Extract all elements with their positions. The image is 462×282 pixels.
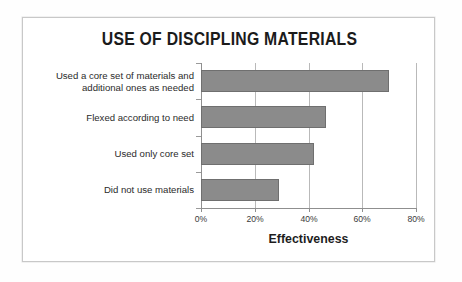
category-label-line: Did not use materials: [26, 184, 194, 196]
x-tick-mark: [362, 208, 363, 212]
category-label-line: Used only core set: [26, 148, 194, 160]
x-tick-label: 80%: [396, 214, 436, 224]
y-axis-end-tick: [196, 63, 201, 64]
x-tick-mark: [416, 208, 417, 212]
scanned-page: USE OF DISCIPLING MATERIALS Effectivenes…: [0, 0, 462, 282]
category-label: Used only core set: [26, 148, 194, 160]
y-tick-mark: [196, 99, 201, 100]
x-tick-label: 20%: [235, 214, 275, 224]
category-label: Flexed according to need: [26, 112, 194, 124]
category-label-line: additional ones as needed: [26, 82, 194, 94]
chart-frame: USE OF DISCIPLING MATERIALS Effectivenes…: [22, 17, 435, 262]
category-label-line: Used a core set of materials and: [26, 70, 194, 82]
plot-area: [201, 63, 416, 208]
x-tick-label: 40%: [289, 214, 329, 224]
gridline: [416, 63, 417, 208]
chart-title: USE OF DISCIPLING MATERIALS: [44, 29, 416, 50]
y-axis-end-tick: [196, 208, 201, 209]
bar: [201, 70, 389, 92]
category-label-line: Flexed according to need: [26, 112, 194, 124]
x-axis-title: Effectiveness: [201, 232, 416, 246]
bar: [201, 143, 314, 165]
category-label: Did not use materials: [26, 184, 194, 196]
bar: [201, 106, 326, 128]
x-tick-label: 60%: [342, 214, 382, 224]
x-tick-label: 0%: [181, 214, 221, 224]
x-tick-mark: [255, 208, 256, 212]
bar: [201, 179, 279, 201]
category-label: Used a core set of materials andaddition…: [26, 70, 194, 93]
x-tick-mark: [309, 208, 310, 212]
y-tick-mark: [196, 172, 201, 173]
x-tick-mark: [201, 208, 202, 212]
y-tick-mark: [196, 136, 201, 137]
